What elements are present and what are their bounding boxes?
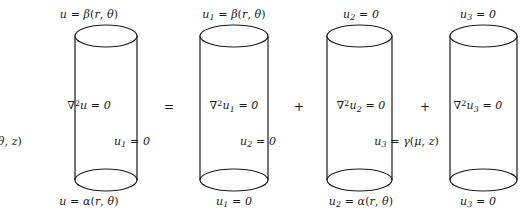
equals-sign: = — [162, 100, 176, 114]
boundary-label-bottom: u = α(r, θ) — [59, 196, 118, 207]
cylinder-bottom-ellipse — [200, 169, 268, 191]
laplace-equation-label: ∇2u2 = 0 — [337, 100, 386, 113]
cylinder-top-ellipse — [75, 25, 137, 47]
boundary-label-top: u = β(r, θ) — [60, 9, 118, 20]
boundary-label-side: u = γ(θ, z) — [0, 136, 22, 147]
boundary-label-bottom: u1 = 0 — [216, 196, 252, 209]
cylinder-top-ellipse — [200, 25, 268, 47]
boundary-label-top: u3 = 0 — [460, 9, 496, 22]
boundary-label-side: u1 = 0 — [114, 136, 150, 149]
cylinder-bottom-ellipse — [450, 169, 517, 191]
cylinder-top-ellipse — [450, 25, 517, 47]
boundary-label-side: u3 = γ(μ, z) — [374, 136, 439, 149]
cylinder-u: u = β(r, θ)∇2u = 0u = α(r, θ)u = γ(θ, z) — [28, 0, 150, 221]
cylinder-top-ellipse — [327, 25, 392, 47]
boundary-label-bottom: u3 = 0 — [460, 196, 496, 209]
cylinder-bottom-ellipse — [75, 169, 137, 191]
cylinder-u2: u2 = 0∇2u2 = 0u2 = α(r, θ)u2 = 0 — [300, 0, 422, 221]
laplace-superposition-figure: u = β(r, θ)∇2u = 0u = α(r, θ)u = γ(θ, z)… — [0, 0, 532, 221]
plus-sign-1: + — [292, 100, 306, 114]
cylinder-u3: u3 = 0∇2u3 = 0u3 = 0u3 = γ(μ, z) — [424, 0, 532, 221]
boundary-label-side: u2 = 0 — [240, 136, 276, 149]
cylinder-u1: u1 = β(r, θ)∇2u1 = 0u1 = 0u1 = 0 — [172, 0, 296, 221]
boundary-label-bottom: u2 = α(r, θ) — [329, 196, 394, 209]
boundary-label-top: u2 = 0 — [343, 9, 379, 22]
laplace-equation-label: ∇2u = 0 — [67, 100, 111, 111]
cylinder-bottom-ellipse — [327, 169, 392, 191]
laplace-equation-label: ∇2u1 = 0 — [210, 100, 259, 113]
plus-sign-2: + — [418, 100, 432, 114]
boundary-label-top: u1 = β(r, θ) — [202, 9, 265, 22]
laplace-equation-label: ∇2u3 = 0 — [454, 100, 503, 113]
